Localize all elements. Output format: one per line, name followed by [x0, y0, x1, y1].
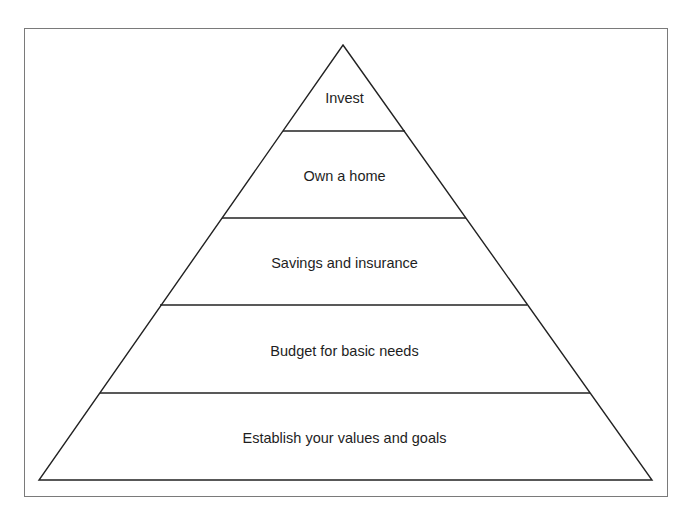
level-label-budget: Budget for basic needs [0, 342, 689, 360]
level-label-savings: Savings and insurance [0, 254, 689, 272]
level-label-values-goals: Establish your values and goals [0, 429, 689, 447]
level-label-invest: Invest [0, 89, 689, 107]
level-label-own-home: Own a home [0, 167, 689, 185]
